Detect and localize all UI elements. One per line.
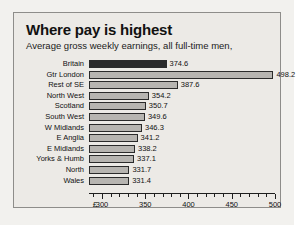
category-label: North [14,165,84,175]
bar-value-label: 387.6 [181,80,200,90]
axis-tick-label: 400 [182,200,195,209]
category-label: Yorks & Humb [14,154,84,164]
bar-row: Rest of SE387.6 [14,80,282,90]
category-label: Wales [14,176,84,186]
category-label: Britain [14,59,84,69]
bar-row: Yorks & Humb337.1 [14,154,282,164]
axis-tick-minor [180,194,181,197]
axis-tick-minor [266,194,267,197]
bar-value-label: 346.3 [145,123,164,133]
bar-row: Scotland350.7 [14,101,282,111]
axis-tick-minor [128,194,129,197]
plot-area: Britain374.6Gtr London498.2Rest of SE387… [14,57,282,207]
axis-tick-major [275,194,276,199]
category-label: Gtr London [14,70,84,80]
bar-value-label: 498.2 [276,70,294,80]
bar-value-label: 331.7 [132,165,151,175]
bar [89,102,146,110]
bar [89,113,145,121]
chart-figure: Where pay is highest Average gross weekl… [0,0,294,225]
bar-row: Britain374.6 [14,59,282,69]
axis-tick-major [232,194,233,199]
bar-row: Wales331.4 [14,176,282,186]
bar-value-label: 337.1 [137,154,156,164]
axis-tick-minor [137,194,138,197]
axis-tick-minor [249,194,250,197]
axis-tick-major [188,194,189,199]
axis-tick-minor [206,194,207,197]
axis-currency-symbol: £ [93,200,97,209]
axis-tick-minor [258,194,259,197]
axis-tick-minor [154,194,155,197]
category-label: W Midlands [14,123,84,133]
axis-tick-minor [93,194,94,197]
bar-row: E Midlands338.2 [14,144,282,154]
bar [89,134,138,142]
bar-row: Gtr London498.2 [14,70,282,80]
bar [89,177,129,185]
category-label: Scotland [14,101,84,111]
bar-value-label: 331.4 [132,176,151,186]
x-axis-line [89,193,275,194]
axis-tick-minor [240,194,241,197]
bar [89,92,149,100]
bar-value-label: 354.2 [152,91,171,101]
bar-value-label: 349.6 [148,112,167,122]
axis-tick-minor [223,194,224,197]
bar [89,81,178,89]
bar-value-label: 341.2 [141,133,160,143]
category-label: Rest of SE [14,80,84,90]
chart-title: Where pay is highest [26,21,172,38]
axis-tick-label: 350 [139,200,152,209]
bar [89,124,142,132]
category-label: South West [14,112,84,122]
bar-row: North331.7 [14,165,282,175]
axis-tick-minor [197,194,198,197]
bar-value-label: 350.7 [149,101,168,111]
category-label: North West [14,91,84,101]
axis-tick-major [102,194,103,199]
axis-tick-major [145,194,146,199]
bar [89,60,167,68]
bar [89,155,134,163]
bar [89,145,135,153]
category-label: E Anglia [14,133,84,143]
bar-row: E Anglia341.2 [14,133,282,143]
axis-tick-label: 450 [225,200,238,209]
chart-panel: Where pay is highest Average gross weekl… [13,12,281,208]
bar [89,71,273,79]
bar [89,166,129,174]
bar-value-label: 374.6 [170,59,189,69]
axis-tick-minor [119,194,120,197]
axis-tick-minor [214,194,215,197]
axis-tick-label: 300 [96,200,109,209]
axis-tick-minor [171,194,172,197]
bar-value-label: 338.2 [138,144,157,154]
axis-tick-minor [111,194,112,197]
bar-row: South West349.6 [14,112,282,122]
chart-subtitle: Average gross weekly earnings, all full-… [26,40,232,51]
category-label: E Midlands [14,144,84,154]
axis-tick-label: 500 [269,200,282,209]
axis-tick-minor [163,194,164,197]
bar-row: North West354.2 [14,91,282,101]
bar-row: W Midlands346.3 [14,123,282,133]
